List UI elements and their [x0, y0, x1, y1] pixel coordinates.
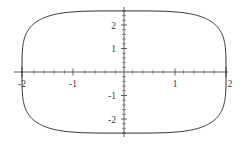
y-tick-label-pos2: 2: [111, 21, 116, 31]
x-tick-label-pos2: 2: [228, 79, 233, 89]
y-tick-label-neg1: -1: [108, 91, 116, 101]
x-tick-label-pos1: 1: [173, 79, 178, 89]
y-tick-label-neg2: -2: [108, 115, 116, 125]
plot-canvas: -2 -1 1 2 2 1 -1 -2: [0, 0, 247, 146]
plot-figure: -2 -1 1 2 2 1 -1 -2: [0, 0, 247, 146]
x-tick-label-neg2: -2: [18, 79, 26, 89]
x-tick-label-neg1: -1: [69, 79, 77, 89]
y-tick-label-pos1: 1: [111, 44, 116, 54]
